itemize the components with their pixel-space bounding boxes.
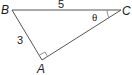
vertex-label-c: C	[122, 4, 131, 18]
vertex-label-b: B	[1, 3, 9, 17]
right-angle-marker	[40, 52, 48, 57]
triangle-diagram: B C A 5 3 θ	[0, 0, 132, 75]
triangle-abc	[12, 10, 121, 60]
side-label-bc: 5	[58, 0, 64, 10]
side-label-ab: 3	[17, 34, 23, 46]
angle-theta-arc	[107, 10, 109, 18]
vertex-label-a: A	[36, 62, 45, 75]
angle-label-theta: θ	[92, 11, 97, 23]
